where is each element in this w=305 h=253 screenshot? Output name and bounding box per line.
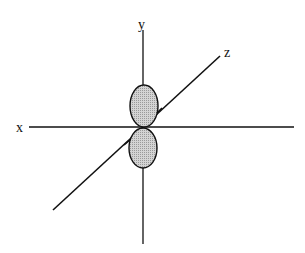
y-axis-label: y (138, 17, 145, 32)
x-axis-label: x (16, 120, 23, 135)
lower-lobe (129, 128, 157, 168)
upper-lobe (130, 85, 158, 127)
z-axis-label: z (224, 45, 230, 60)
orbital-diagram: y x z (0, 0, 305, 253)
